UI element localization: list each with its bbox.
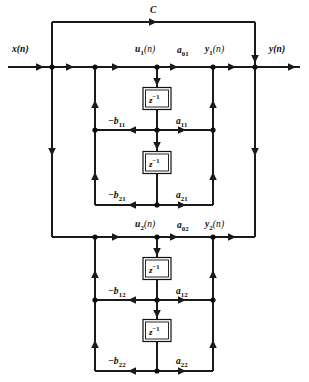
section2-a02-label: a02 <box>177 221 189 233</box>
section1-a21-label: a21 <box>176 191 188 203</box>
section1-a01-label: a01 <box>177 46 189 58</box>
section2-delay-1-label: z−1 <box>149 264 159 275</box>
section2-a12-label: a12 <box>176 287 188 299</box>
gain-c-label: C <box>150 6 156 16</box>
output-signal-label: y(n) <box>269 45 285 55</box>
section1-output-node-label: y1(n) <box>205 45 224 57</box>
section1-state-node-label: u1(n) <box>135 45 155 57</box>
section2-state-node-label: u2(n) <box>135 220 155 232</box>
section1-delay-1-label: z−1 <box>149 94 159 105</box>
section1-b11-label: −b11 <box>108 117 125 129</box>
section1-a11-label: a11 <box>176 117 187 129</box>
section2-a22-label: a22 <box>176 357 188 369</box>
section2-output-node-label: y2(n) <box>205 220 224 232</box>
gain-c-path <box>52 18 259 67</box>
section2-b22-label: −b22 <box>108 357 126 369</box>
section1-b21-label: −b21 <box>108 191 126 203</box>
signal-flow-diagram: C x(n) y(n) u1(n) a01 y1(n) −b11 a11 −b2… <box>0 0 309 382</box>
main-signal-line-bottom <box>52 233 255 241</box>
section2-b12-label: −b12 <box>108 287 126 299</box>
section1-delay-2-label: z−1 <box>149 158 159 169</box>
input-signal-label: x(n) <box>12 45 29 55</box>
section2-delay-2-label: z−1 <box>149 326 159 337</box>
